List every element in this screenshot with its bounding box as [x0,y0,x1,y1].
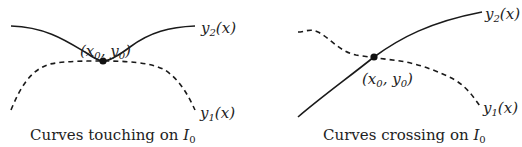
label-y1-crossing: y1(x) [482,99,518,118]
label-y2-crossing: y2(x) [484,5,520,24]
curve-y1-touching [11,61,195,110]
caption-touching: Curves touching on I0 [30,126,196,145]
panel-crossing: (x0, y0) y2(x) y1(x) Curves crossing on … [298,5,520,145]
caption-crossing: Curves crossing on I0 [323,126,486,145]
point-label-crossing: (x0, y0) [362,70,413,89]
curve-y2-crossing [298,12,482,117]
point-label-touching: (x0, y0) [80,42,131,61]
label-y1-touching: y1(x) [199,104,235,123]
label-y2-touching: y2(x) [200,19,236,38]
panel-touching: (x0, y0) y2(x) y1(x) Curves touching on … [11,19,236,145]
crossing-point-dot [370,53,377,60]
diagram-canvas: (x0, y0) y2(x) y1(x) Curves touching on … [0,0,522,147]
